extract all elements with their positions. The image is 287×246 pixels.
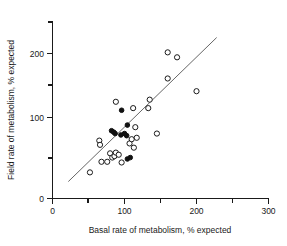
axes-group [52, 21, 269, 199]
data-point-open [194, 89, 199, 94]
x-tick-labels: 0 100 200 300 [50, 206, 276, 216]
data-point-open [165, 50, 170, 55]
data-point-open [146, 106, 151, 111]
data-point-open [165, 76, 170, 81]
open-circle-series [87, 50, 199, 175]
data-point-open [129, 137, 134, 142]
x-tick-label-100: 100 [117, 206, 131, 216]
data-point-open [133, 125, 138, 130]
data-point-filled [119, 108, 124, 113]
data-point-open [119, 160, 124, 165]
data-point-open [113, 99, 118, 104]
data-point-open [131, 145, 136, 150]
data-point-open [174, 55, 179, 60]
plot-canvas: 0 100 200 0 100 200 300 Basal rate of me… [0, 0, 287, 246]
data-point-filled [124, 133, 129, 138]
x-tick-label-0: 0 [50, 206, 55, 216]
y-axis-title: Field rate of metabolism, % expected [6, 40, 16, 180]
data-point-open [134, 135, 139, 140]
y-tick-labels: 0 100 200 [30, 49, 44, 204]
y-axis-ticks [47, 22, 53, 199]
scatter-plot-figure: 0 100 200 0 100 200 300 Basal rate of me… [0, 0, 287, 246]
y-tick-label-100: 100 [30, 113, 44, 123]
reference-line [68, 38, 216, 182]
data-point-open [97, 142, 102, 147]
data-point-open [116, 152, 121, 157]
data-point-open [131, 106, 136, 111]
x-tick-label-200: 200 [189, 206, 203, 216]
x-tick-label-300: 300 [261, 206, 275, 216]
y-tick-label-200: 200 [30, 49, 44, 59]
x-axis-title: Basal rate of metabolism, % expected [89, 225, 232, 235]
data-point-filled [128, 155, 133, 160]
data-point-open [87, 170, 92, 175]
y-tick-label-0: 0 [39, 194, 44, 204]
data-point-filled [113, 131, 118, 136]
data-point-open [99, 159, 104, 164]
data-point-filled [125, 123, 130, 128]
data-point-open [105, 159, 110, 164]
x-axis-ticks [53, 199, 269, 205]
data-point-open [154, 131, 159, 136]
data-point-open [147, 97, 152, 102]
